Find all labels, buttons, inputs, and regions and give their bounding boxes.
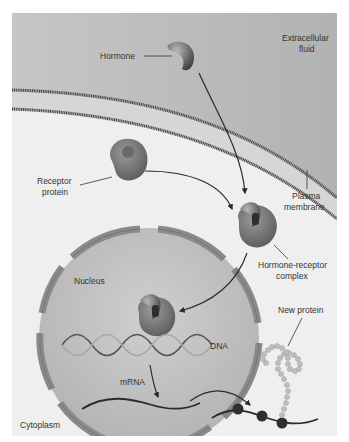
diagram-figure: Hormone Extracellular fluid Receptor pro… — [12, 13, 337, 436]
complex-label: Hormone-receptor — [258, 260, 327, 270]
extracellular-label-2: fluid — [299, 44, 315, 54]
dna-label: DNA — [210, 341, 228, 351]
new-protein-label: New protein — [278, 305, 324, 315]
complex-label-2: complex — [276, 271, 308, 281]
extracellular-label: Extracellular — [282, 33, 329, 43]
nucleus-label: Nucleus — [74, 276, 105, 286]
cytoplasm-label: Cytoplasm — [20, 420, 60, 430]
plasma-membrane-label: Plasma — [292, 191, 321, 201]
plasma-membrane-label-2: membrane — [284, 202, 325, 212]
hormone-label: Hormone — [100, 51, 135, 61]
receptor-label: Receptor — [37, 176, 72, 186]
mrna-label: mRNA — [120, 377, 145, 387]
receptor-label-2: protein — [42, 187, 68, 197]
